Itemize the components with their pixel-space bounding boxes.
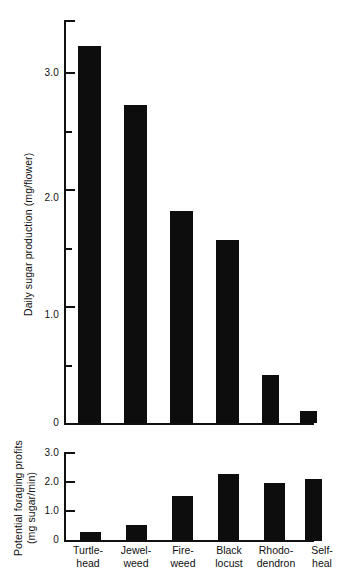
x-axis-line-top (64, 423, 314, 425)
bar-top-blacklocust (216, 240, 239, 423)
x-label-selfheal: Self- heal (300, 544, 337, 569)
x-label-turtlehead-line2: head (62, 557, 114, 570)
x-label-selfheal-line1: Self- (300, 544, 337, 557)
y-tick-label-top-0: 0 (31, 418, 59, 428)
x-label-rhododendron-line2: dendron (247, 557, 305, 570)
x-label-rhododendron: Rhodo- dendron (247, 544, 305, 569)
y-tick-label-bottom-2: 2.0 (31, 477, 59, 487)
x-label-selfheal-line2: heal (300, 557, 337, 570)
x-label-jewelweed-line1: Jewel- (110, 544, 162, 557)
y-tick-label-top-3: 3.0 (31, 68, 59, 78)
bar-top-rhododendron (262, 375, 279, 423)
panel-daily-sugar-production: Daily sugar production (mg/flower) 3.0 2… (0, 0, 323, 432)
y-axis-title-bottom-line1: Potential foraging profits (12, 440, 24, 556)
x-label-turtlehead-line1: Turtle- (62, 544, 114, 557)
y-tick-label-top-2: 2.0 (31, 193, 59, 203)
x-label-fireweed-line1: Fire- (157, 544, 209, 557)
bar-top-fireweed (170, 211, 193, 423)
x-label-jewelweed: Jewel- weed (110, 544, 162, 569)
bar-bottom-blacklocust (218, 474, 239, 541)
y-tick-label-bottom-0: 0 (31, 535, 59, 545)
x-label-fireweed-line2: weed (157, 557, 209, 570)
bar-bottom-rhododendron (264, 483, 285, 541)
bar-top-selfheal (300, 411, 317, 423)
bar-bottom-jewelweed (126, 525, 147, 541)
bar-bottom-fireweed (172, 496, 193, 541)
y-tick-label-bottom-1: 1.0 (31, 506, 59, 516)
y-tick-label-bottom-3: 3.0 (31, 448, 59, 458)
bars-bottom (66, 452, 314, 541)
bar-bottom-selfheal (305, 479, 322, 541)
bar-top-jewelweed (124, 105, 147, 423)
x-label-jewelweed-line2: weed (110, 557, 162, 570)
bar-bottom-turtlehead (80, 532, 101, 541)
x-axis-category-labels: Turtle- head Jewel- weed Fire- weed Blac… (66, 544, 318, 576)
x-label-turtlehead: Turtle- head (62, 544, 114, 569)
x-label-fireweed: Fire- weed (157, 544, 209, 569)
y-axis-title-top: Daily sugar production (mg/flower) (22, 153, 34, 316)
y-tick-label-top-1: 1.0 (31, 310, 59, 320)
x-label-rhododendron-line1: Rhodo- (247, 544, 305, 557)
bar-top-turtlehead (78, 46, 101, 423)
bars-top (66, 20, 314, 423)
